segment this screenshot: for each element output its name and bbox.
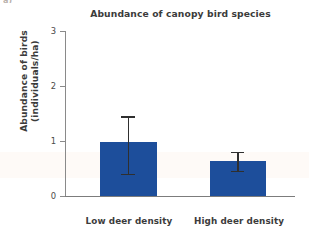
error-bar-cap-lower-high-deer-density xyxy=(231,171,244,173)
y-tick-label-0: 0 xyxy=(26,192,56,200)
y-tick-3 xyxy=(60,31,65,32)
error-bar-cap-upper-high-deer-density xyxy=(231,152,244,154)
y-axis-line xyxy=(65,31,66,196)
error-bar-cap-upper-low-deer-density xyxy=(121,116,135,118)
y-tick-2 xyxy=(60,86,65,87)
error-bar-cap-lower-low-deer-density xyxy=(121,174,135,176)
y-tick-1 xyxy=(60,141,65,142)
y-axis-title-line1: Abundance of birds xyxy=(19,30,29,132)
y-tick-0 xyxy=(60,196,65,197)
x-axis-line xyxy=(65,196,295,197)
error-bar-stem-low-deer-density xyxy=(128,116,129,175)
panel-label: a) xyxy=(3,0,12,3)
error-bar-stem-high-deer-density xyxy=(237,152,238,173)
figure-panel: a) Abundance of canopy bird species 3 2 … xyxy=(0,0,309,232)
y-axis-title-line2: (individuals/ha) xyxy=(30,40,40,122)
chart-title: Abundance of canopy bird species xyxy=(66,8,295,19)
x-tick-label-low-deer-density: Low deer density xyxy=(73,216,185,226)
x-tick-label-high-deer-density: High deer density xyxy=(183,216,295,226)
y-axis-title: Abundance of birds (individuals/ha) xyxy=(19,21,41,141)
